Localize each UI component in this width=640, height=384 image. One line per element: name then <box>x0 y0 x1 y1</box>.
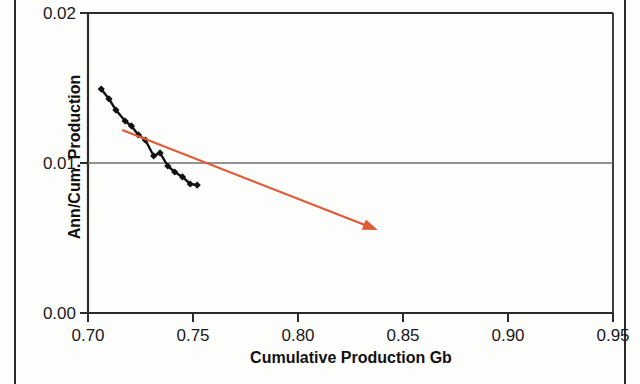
x-tick-label-080: 0.80 <box>268 326 328 346</box>
data-point-marker <box>194 181 201 188</box>
trend-line-series <box>122 130 378 230</box>
trend-line-path <box>122 130 369 227</box>
y-tick-label-000: 0.00 <box>20 304 76 324</box>
x-tick-label-070: 0.70 <box>58 326 118 346</box>
data-line-path <box>101 89 197 185</box>
y-tick-label-002: 0.02 <box>20 4 76 24</box>
x-axis-title: Cumulative Production Gb <box>88 349 614 367</box>
x-tick-label-085: 0.85 <box>373 326 433 346</box>
data-series-line <box>98 85 201 188</box>
y-axis-title: Ann/Cum. Production <box>66 27 84 287</box>
x-tick-label-075: 0.75 <box>163 326 223 346</box>
x-axis-ticks <box>88 313 613 322</box>
x-tick-label-095: 0.95 <box>583 326 640 346</box>
chart-figure: 0.02 0.01 0.00 0.70 0.75 0.80 0.85 0.90 … <box>0 0 640 384</box>
x-tick-label-090: 0.90 <box>478 326 538 346</box>
trend-arrowhead-icon <box>362 219 378 230</box>
